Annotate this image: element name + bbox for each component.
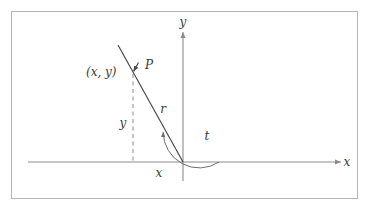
polar-coordinate-diagram: x y P (x, y) r t y x [0, 0, 370, 210]
figure-frame [12, 12, 358, 199]
y-axis-label: y [179, 15, 187, 29]
horizontal-leg-label: x [156, 166, 163, 180]
x-axis-label: x [344, 155, 351, 169]
figure-root: x y P (x, y) r t y x [0, 0, 370, 210]
vertical-leg-label: y [119, 116, 127, 130]
angle-label: t [205, 129, 210, 143]
coordinates-label: (x, y) [86, 65, 117, 79]
point-p-label: P [144, 58, 154, 72]
